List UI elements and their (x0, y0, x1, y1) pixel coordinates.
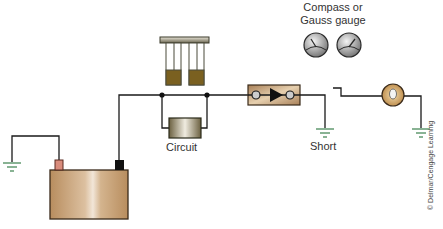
compass-gauge-1-icon (304, 33, 328, 57)
battery-positive-terminal (55, 160, 63, 170)
gauge-title-line1: Compass or (283, 1, 383, 14)
gauge-title: Compass or Gauss gauge (283, 1, 383, 27)
short-wire (300, 95, 325, 128)
copyright-text: © Delmar/Cengage Learning (427, 121, 434, 210)
compass-gauge-2-icon (337, 33, 361, 57)
circuit-diagram (0, 0, 443, 229)
short-label: Short (310, 140, 336, 152)
lamp-ground-wire (404, 96, 421, 128)
junction-node-right (204, 92, 209, 97)
switch-icon[interactable] (333, 88, 383, 96)
ground-left-wire (12, 136, 59, 162)
junction-node-left (159, 92, 164, 97)
inline-diode-block-icon (248, 85, 300, 105)
breaker-tool-icon (160, 37, 209, 85)
battery-icon (50, 160, 128, 219)
ground-short-icon (316, 129, 334, 137)
battery-negative-terminal (115, 160, 124, 170)
circuit-device-icon (169, 118, 201, 138)
ground-left-icon (3, 163, 21, 171)
gauge-title-line2: Gauss gauge (283, 14, 383, 27)
circuit-label: Circuit (166, 141, 197, 153)
lamp-icon (382, 84, 404, 106)
